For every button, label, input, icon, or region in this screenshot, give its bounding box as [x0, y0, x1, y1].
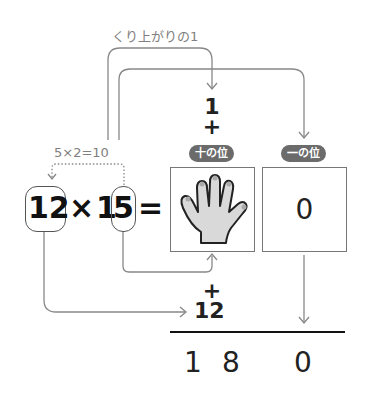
- ones-place-badge: 一の位: [281, 145, 326, 162]
- addend: 12: [194, 298, 225, 323]
- result-ones: 0: [294, 346, 312, 379]
- ones-digit: 0: [296, 193, 314, 226]
- left-operand: 12: [28, 190, 70, 225]
- carry-arrow: [108, 48, 212, 140]
- tens-box: [170, 167, 255, 252]
- result-tens: 8: [222, 346, 240, 379]
- hint-text: 5×2=10: [54, 145, 109, 160]
- tens-place-badge: 十の位: [189, 145, 234, 162]
- equals-sign: =: [138, 190, 163, 225]
- times-sign: ×: [69, 190, 94, 225]
- plus-sign-top: +: [200, 114, 224, 139]
- right-operand-ones: 5: [113, 190, 134, 225]
- result-hundreds: 1: [184, 346, 202, 379]
- open-hand-icon: [171, 168, 254, 251]
- carry-label: くり上がりの1: [112, 26, 198, 45]
- ones-box: 0: [262, 167, 347, 252]
